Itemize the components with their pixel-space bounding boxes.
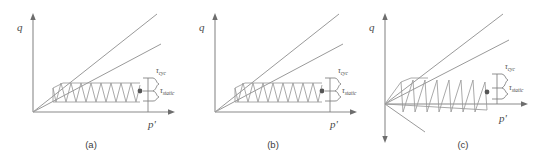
stress-point-marker-b — [320, 89, 325, 94]
tau-cyc-label-a: τcyc — [156, 66, 166, 76]
y-axis-label-a: q — [17, 21, 23, 33]
figure-container: τcyc τstatic q p' (a) — [0, 0, 545, 157]
lower-envelope-c — [385, 40, 509, 104]
tau-static-label-a: τstatic — [160, 86, 175, 96]
x-axis-label-a: p' — [147, 118, 157, 130]
x-axis-b — [215, 109, 357, 114]
panel-caption-b: (b) — [267, 139, 279, 150]
x-axis-label-b: p' — [329, 118, 339, 130]
tau-static-label-b: τstatic — [342, 86, 357, 96]
x-axis-label-c: p' — [498, 112, 508, 124]
panel-b: τcyc τstatic q p' (b) — [182, 0, 364, 157]
stress-point-marker-a — [138, 89, 143, 94]
y-axis-c — [382, 13, 387, 143]
cyclic-path-c — [385, 78, 487, 112]
tau-bracket-c — [492, 74, 508, 104]
stress-point-marker-c — [485, 90, 490, 95]
tau-cyc-label-c: τcyc — [505, 62, 515, 72]
y-axis-label-c: q — [369, 21, 375, 33]
panel-a: τcyc τstatic q p' (a) — [0, 0, 182, 157]
x-axis-a — [33, 109, 175, 114]
tau-bracket-a — [143, 78, 159, 112]
y-axis-label-b: q — [199, 21, 205, 33]
tau-cyc-label-b: τcyc — [338, 66, 348, 76]
panel-c: τcyc τstatic q p' (c) — [363, 0, 545, 157]
tau-bracket-b — [325, 78, 341, 112]
panel-caption-a: (a) — [85, 139, 97, 150]
panel-caption-c: (c) — [457, 139, 468, 150]
y-axis-b — [212, 13, 217, 112]
tau-static-label-c: τstatic — [509, 83, 524, 93]
y-axis-a — [30, 13, 35, 112]
negative-envelope-c — [385, 104, 425, 132]
